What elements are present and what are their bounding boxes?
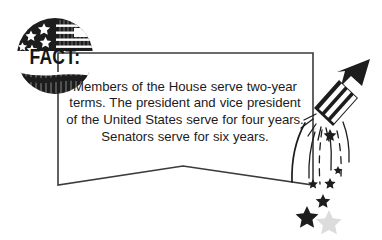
firework-rocket-icon [301,59,370,141]
falling-star-large [296,206,319,228]
falling-star-medium [316,194,331,208]
fact-callout-graphic: Members of the House serve two-year term… [0,0,382,240]
falling-star-small [324,178,335,189]
falling-star-small [308,179,318,188]
firework-decoration-layer [0,0,382,240]
